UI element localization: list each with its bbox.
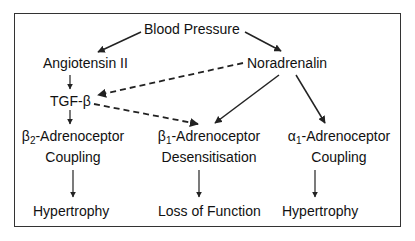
beta2-line2: Coupling: [14, 149, 132, 165]
arrow-noradrenalin-to-beta1: [215, 75, 279, 123]
alpha1-greek: α: [288, 128, 296, 144]
beta2-rest: -Adrenoceptor: [35, 128, 124, 144]
arrow-noradrenalin-to-alpha1: [296, 75, 325, 123]
node-outcome-hypertrophy-right: Hypertrophy: [282, 203, 358, 219]
beta1-line2: Desensitisation: [150, 149, 268, 165]
node-outcome-loss-of-function: Loss of Function: [158, 203, 261, 219]
beta1-rest: -Adrenoceptor: [171, 128, 260, 144]
node-beta1-adrenoceptor-desensitisation: β1-Adrenoceptor Desensitisation: [150, 128, 268, 165]
arrow-bp-to-noradrenalin: [245, 32, 281, 51]
arrow-bp-to-angiotensin: [98, 32, 141, 52]
node-tgf-beta: TGF-β: [50, 93, 91, 109]
beta2-greek: β: [22, 128, 30, 144]
beta1-greek: β: [158, 128, 166, 144]
node-angiotensin-ii: Angiotensin II: [43, 55, 128, 71]
alpha1-line2: Coupling: [280, 149, 398, 165]
alpha1-rest: -Adrenoceptor: [301, 128, 390, 144]
node-outcome-hypertrophy-left: Hypertrophy: [33, 203, 109, 219]
node-blood-pressure: Blood Pressure: [144, 21, 240, 37]
node-noradrenalin: Noradrenalin: [247, 55, 327, 71]
node-alpha1-adrenoceptor-coupling: α1-Adrenoceptor Coupling: [280, 128, 398, 165]
arrow-tgf-to-beta1-dashed: [94, 104, 198, 124]
node-beta2-adrenoceptor-coupling: β2-Adrenoceptor Coupling: [14, 128, 132, 165]
